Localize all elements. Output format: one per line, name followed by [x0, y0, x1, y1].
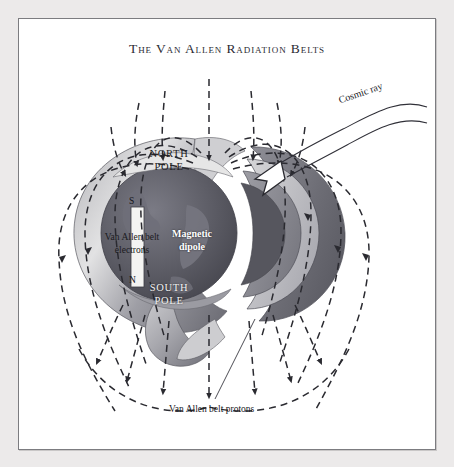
- figure-frame: The Van Allen Radiation Belts: [18, 18, 436, 450]
- north-pole-label: NORTH POLE: [119, 147, 219, 173]
- magnetic-dipole-line2: dipole: [149, 240, 235, 253]
- figure-page: The Van Allen Radiation Belts: [0, 0, 454, 467]
- magnetic-dipole-line1: Magnetic: [149, 227, 235, 240]
- magnetic-dipole-label: Magnetic dipole: [149, 227, 235, 253]
- north-pole-line2: POLE: [119, 160, 219, 173]
- north-pole-line1: NORTH: [119, 147, 219, 160]
- proton-belt-label: Van Allen belt protons: [169, 404, 254, 414]
- south-pole-line2: POLE: [119, 294, 219, 307]
- dipole-south-pole-marker: S: [129, 196, 134, 206]
- dipole-north-pole-marker: N: [129, 275, 136, 285]
